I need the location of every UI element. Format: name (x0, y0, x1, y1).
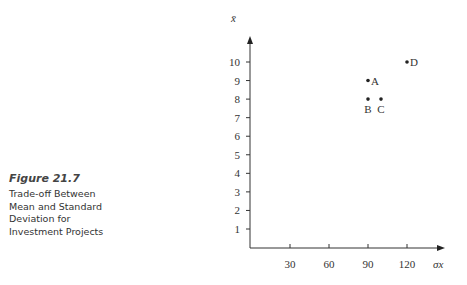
x-tick-label: 60 (324, 258, 336, 270)
y-ticks: 12345678910 (229, 56, 250, 235)
data-point-d (405, 60, 409, 64)
y-tick-label: 5 (235, 149, 241, 161)
y-tick-label: 10 (229, 56, 241, 68)
scatter-chart: 12345678910 306090120 ABCD x̄ σx (0, 0, 467, 285)
point-label-c: C (377, 103, 384, 115)
x-axis-label: σx (433, 258, 443, 270)
y-tick-label: 7 (235, 112, 241, 124)
y-tick-label: 3 (235, 186, 241, 198)
x-tick-label: 90 (363, 258, 375, 270)
y-axis-label: x̄ (230, 12, 236, 24)
point-label-a: A (371, 75, 379, 87)
x-tick-label: 120 (399, 258, 416, 270)
data-point-b (366, 97, 370, 101)
data-point-a (366, 79, 370, 83)
y-tick-label: 6 (235, 130, 241, 142)
y-tick-label: 9 (235, 75, 241, 87)
point-label-b: B (364, 103, 371, 115)
x-axis-arrow-icon (437, 245, 445, 251)
x-tick-label: 30 (285, 258, 297, 270)
y-tick-label: 4 (235, 167, 241, 179)
axes (247, 36, 445, 251)
data-point-c (379, 97, 383, 101)
y-axis-arrow-icon (247, 36, 253, 44)
y-tick-label: 1 (235, 223, 241, 235)
data-points: ABCD (364, 56, 418, 115)
point-label-d: D (410, 56, 418, 68)
y-tick-label: 8 (235, 93, 241, 105)
y-tick-label: 2 (235, 204, 241, 216)
